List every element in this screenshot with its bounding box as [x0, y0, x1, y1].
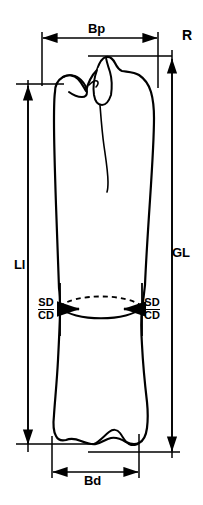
bone-measurement-figure: Bp R GL Ll Bd SD CD SD CD — [0, 0, 203, 505]
label-sd-left: SD — [38, 297, 54, 310]
bone-outline — [53, 57, 154, 444]
label-sd-cd-right: SD CD — [144, 297, 160, 321]
label-gl: GL — [172, 246, 190, 259]
label-bd: Bd — [84, 474, 101, 487]
label-sd-right: SD — [144, 297, 160, 310]
label-ll: Ll — [14, 258, 25, 271]
label-bp: Bp — [88, 22, 105, 35]
label-cd-right: CD — [144, 310, 160, 322]
label-cd-left: CD — [38, 310, 54, 322]
bone-body-path — [53, 57, 154, 444]
label-side-marker-r: R — [182, 28, 192, 42]
label-sd-cd-left: SD CD — [38, 297, 54, 321]
